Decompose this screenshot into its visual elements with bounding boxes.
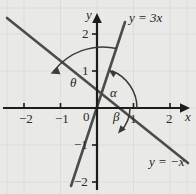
- coordinate-plane-figure: −2 −1 1 2 2 1 −1 −2 0 y x y = 3x y = −x …: [0, 0, 196, 194]
- angle-label-beta: β: [113, 110, 119, 123]
- origin-label: 0: [83, 110, 90, 123]
- y-axis-label: y: [86, 8, 92, 21]
- y-tick-label-minus-1: −1: [74, 138, 88, 151]
- x-tick-label-2: 2: [166, 112, 173, 125]
- x-tick-label-minus-2: −2: [19, 112, 33, 125]
- angle-label-alpha: α: [110, 86, 117, 99]
- x-tick-label-1: 1: [130, 112, 137, 125]
- line-label-y-minus-x: y = −x: [149, 155, 185, 168]
- angle-label-theta: θ: [70, 76, 76, 89]
- y-tick-label-minus-2: −2: [74, 175, 88, 188]
- y-tick-label-2: 2: [82, 27, 89, 40]
- x-axis-label: x: [185, 110, 191, 123]
- x-tick-label-minus-1: −1: [55, 112, 69, 125]
- y-axis: [92, 13, 102, 190]
- line-label-y-3x: y = 3x: [129, 11, 162, 24]
- y-tick-label-1: 1: [82, 64, 89, 77]
